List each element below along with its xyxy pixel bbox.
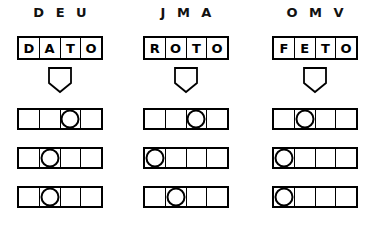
circle-marker xyxy=(274,188,293,207)
circle-marker xyxy=(166,188,185,207)
word-letter-cell: T xyxy=(61,38,82,58)
column-header-initials: D E U xyxy=(17,6,103,20)
grid-cell[interactable] xyxy=(274,149,295,167)
word-letter-cell: O xyxy=(81,38,101,58)
word-letter-cell: O xyxy=(207,38,227,58)
grid-cell[interactable] xyxy=(336,188,356,206)
down-arrow-icon xyxy=(47,66,73,94)
word-letter-cell: F xyxy=(274,38,295,58)
grid-cell[interactable] xyxy=(274,110,295,128)
grid-cell[interactable] xyxy=(295,110,316,128)
grid-cell[interactable] xyxy=(61,149,82,167)
word-boxes: R O T O xyxy=(143,36,229,60)
answer-grid-row[interactable] xyxy=(143,147,229,169)
grid-cell[interactable] xyxy=(207,110,227,128)
circle-marker xyxy=(187,110,206,129)
grid-cell[interactable] xyxy=(61,110,82,128)
answer-grid-row[interactable] xyxy=(17,147,103,169)
grid-cell[interactable] xyxy=(81,110,101,128)
worksheet-column-2: J M A R O T O xyxy=(143,0,229,226)
column-header-initials: O M V xyxy=(272,6,358,20)
circle-marker xyxy=(274,149,293,168)
word-letter-cell: T xyxy=(316,38,337,58)
column-header-initials: J M A xyxy=(143,6,229,20)
grid-cell[interactable] xyxy=(166,149,187,167)
grid-cell[interactable] xyxy=(336,149,356,167)
grid-cell[interactable] xyxy=(81,188,101,206)
down-arrow-icon xyxy=(302,66,328,94)
grid-cell[interactable] xyxy=(187,110,208,128)
grid-cell[interactable] xyxy=(145,149,166,167)
grid-cell[interactable] xyxy=(19,110,40,128)
word-letter-cell: D xyxy=(19,38,40,58)
grid-cell[interactable] xyxy=(145,110,166,128)
answer-grid-row[interactable] xyxy=(17,186,103,208)
circle-marker xyxy=(61,110,80,129)
grid-cell[interactable] xyxy=(316,110,337,128)
grid-cell[interactable] xyxy=(207,149,227,167)
grid-cell[interactable] xyxy=(166,110,187,128)
answer-grid-row[interactable] xyxy=(143,186,229,208)
word-letter-cell: E xyxy=(295,38,316,58)
grid-cell[interactable] xyxy=(19,149,40,167)
grid-cell[interactable] xyxy=(40,149,61,167)
answer-grid-row[interactable] xyxy=(272,108,358,130)
word-letter-cell: O xyxy=(336,38,356,58)
grid-cell[interactable] xyxy=(316,149,337,167)
worksheet-column-1: D E U D A T O xyxy=(17,0,103,226)
word-letter-cell: R xyxy=(145,38,166,58)
circle-marker xyxy=(145,149,164,168)
grid-cell[interactable] xyxy=(19,188,40,206)
worksheet-column-3: O M V F E T O xyxy=(272,0,358,226)
circle-marker xyxy=(40,149,59,168)
grid-cell[interactable] xyxy=(336,110,356,128)
answer-grid-row[interactable] xyxy=(272,186,358,208)
word-boxes: F E T O xyxy=(272,36,358,60)
circle-marker xyxy=(40,188,59,207)
answer-grid-row[interactable] xyxy=(17,108,103,130)
down-arrow-icon xyxy=(173,66,199,94)
answer-grid-row[interactable] xyxy=(143,108,229,130)
word-letter-cell: A xyxy=(40,38,61,58)
word-letter-cell: O xyxy=(166,38,187,58)
grid-cell[interactable] xyxy=(187,188,208,206)
grid-cell[interactable] xyxy=(81,149,101,167)
grid-cell[interactable] xyxy=(145,188,166,206)
grid-cell[interactable] xyxy=(295,149,316,167)
grid-cell[interactable] xyxy=(207,188,227,206)
grid-cell[interactable] xyxy=(274,188,295,206)
grid-cell[interactable] xyxy=(40,188,61,206)
grid-cell[interactable] xyxy=(187,149,208,167)
word-boxes: D A T O xyxy=(17,36,103,60)
answer-grid-row[interactable] xyxy=(272,147,358,169)
worksheet-canvas: D E U D A T O xyxy=(0,0,367,226)
circle-marker xyxy=(295,110,314,129)
grid-cell[interactable] xyxy=(40,110,61,128)
grid-cell[interactable] xyxy=(166,188,187,206)
grid-cell[interactable] xyxy=(61,188,82,206)
word-letter-cell: T xyxy=(187,38,208,58)
grid-cell[interactable] xyxy=(295,188,316,206)
grid-cell[interactable] xyxy=(316,188,337,206)
